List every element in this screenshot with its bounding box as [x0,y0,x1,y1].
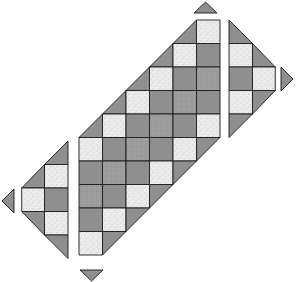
quilt-square-dark-basketweave [126,161,150,185]
setting-triangle [253,91,276,115]
quilt-square-medium-gray [197,67,221,91]
quilt-square-dark-basketweave [173,114,197,138]
right-side-piece [229,20,275,138]
quilt-square-white-speckle [79,138,103,162]
quilt-square-white-speckle [126,185,150,209]
quilt-square-white-speckle [197,114,221,138]
quilt-square-dark-basketweave [229,67,253,91]
quilt-square-white-speckle [79,232,103,256]
quilt-square-dark-basketweave [197,44,221,68]
quilt-square-white-speckle [197,20,221,44]
corner-triangle-bottom [80,270,103,281]
quilt-square-dark-basketweave [197,91,221,115]
quilt-square-white-speckle [103,208,127,232]
edge-triangle [126,208,150,232]
quilt-square-medium-gray [150,114,174,138]
quilt-square-white-speckle [126,91,150,115]
quilt-square-white-speckle [173,138,197,162]
corner-triangle-right [281,67,293,91]
quilt-square-medium-gray [173,91,197,115]
quilt-square-white-speckle [103,114,127,138]
edge-triangle [126,67,150,91]
setting-triangle [229,114,253,138]
quilt-diagram-canvas [0,0,299,282]
edge-triangle [150,44,174,68]
quilt-square-dark-basketweave [103,185,127,209]
corner-triangle-top [194,2,217,13]
quilt-square-white-speckle [150,67,174,91]
quilt-square-white-speckle [229,44,253,68]
quilt-square-medium-gray [126,138,150,162]
setting-triangle [229,20,253,44]
edge-triangle [197,138,221,162]
left-side-piece [22,141,68,259]
edge-triangle [103,232,127,256]
edge-triangle [173,161,197,185]
setting-triangle [45,141,69,165]
quilt-square-white-speckle [229,91,253,115]
quilt-diagram [0,0,299,282]
quilt-square-white-speckle [45,165,69,189]
quilt-square-medium-gray [79,185,103,209]
edge-triangle [150,185,174,209]
quilt-square-white-speckle [253,67,276,91]
corner-triangle-left [2,189,14,213]
quilt-square-dark-basketweave [150,91,174,115]
quilt-square-dark-basketweave [103,138,127,162]
setting-triangle [253,44,276,68]
setting-triangle [22,212,45,236]
quilt-square-white-speckle [150,161,174,185]
quilt-square-dark-basketweave [79,161,103,185]
setting-triangle [45,235,69,259]
quilt-square-dark-basketweave [173,67,197,91]
quilt-square-dark-basketweave [150,138,174,162]
quilt-square-white-speckle [22,188,45,212]
quilt-square-medium-gray [103,161,127,185]
quilt-square-dark-basketweave [126,114,150,138]
edge-triangle [79,114,103,138]
setting-triangle [22,165,45,189]
edge-triangle [173,20,197,44]
quilt-square-white-speckle [45,212,69,236]
quilt-square-dark-basketweave [45,188,69,212]
quilt-square-white-speckle [173,44,197,68]
quilt-square-dark-basketweave [79,208,103,232]
main-block [79,20,220,255]
edge-triangle [103,91,127,115]
